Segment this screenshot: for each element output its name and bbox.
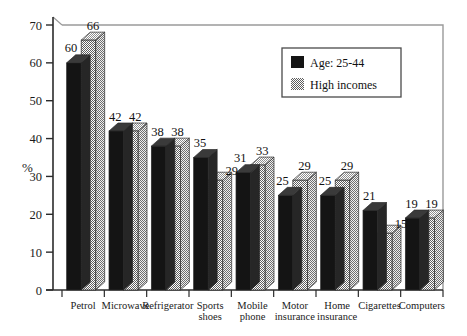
bar-side-face (293, 187, 302, 290)
bar-age-25-44 (236, 173, 251, 290)
solid-black-swatch (291, 56, 304, 68)
bar-value-label: 42 (129, 110, 142, 124)
bar-age-25-44 (321, 195, 336, 290)
x-axis-ticks (62, 290, 443, 297)
x-axis-label: Computers (399, 300, 445, 311)
y-tick-label: 20 (30, 208, 43, 222)
bar-side-face (124, 123, 133, 290)
bar-value-label: 25 (276, 174, 289, 188)
bar-side-face (166, 138, 175, 290)
x-axis-label: insurance (317, 311, 358, 322)
bar-side-face (434, 210, 443, 290)
x-axis-label: insurance (275, 311, 316, 322)
bar-age-25-44 (109, 131, 124, 290)
bar-side-face (138, 123, 147, 290)
y-axis-title: % (22, 160, 33, 175)
x-axis-label: Sports (197, 300, 224, 311)
bar-value-label: 35 (194, 136, 207, 150)
bar-value-label: 19 (425, 197, 438, 211)
bar-side-face (208, 150, 217, 291)
bar-value-label: 15 (395, 217, 408, 231)
bar-age-25-44 (67, 63, 82, 290)
y-tick-label: 50 (30, 94, 43, 108)
legend: Age: 25-44 High incomes (282, 48, 401, 97)
y-tick-label: 60 (30, 56, 43, 70)
bar-side-face (392, 225, 401, 290)
y-tick-label: 40 (30, 132, 43, 146)
bar-age-25-44 (278, 195, 293, 290)
x-axis-label: shoes (198, 311, 221, 322)
bar-value-label: 29 (341, 159, 354, 173)
bar-value-label: 66 (87, 19, 100, 33)
bar-age-25-44 (405, 218, 420, 290)
bar-value-label: 19 (405, 197, 418, 211)
bar-chart: 010203040506070 % 6066424238383529313325… (0, 0, 467, 336)
bar-side-face (335, 187, 344, 290)
x-axis-label: Motor (282, 300, 309, 311)
y-tick-label: 10 (30, 246, 43, 260)
bar-side-face (96, 32, 105, 290)
bar-value-label: 42 (109, 110, 122, 124)
x-axis-label: phone (240, 311, 266, 322)
y-tick-label: 0 (36, 284, 42, 298)
bar-age-25-44 (194, 158, 209, 291)
bar-side-face (378, 203, 387, 291)
bar-side-face (265, 157, 274, 290)
bar-age-25-44 (151, 146, 166, 290)
bar-side-face (420, 210, 429, 290)
x-axis-label: Home (324, 300, 350, 311)
x-axis-label: Refrigerator (142, 300, 194, 311)
bar-value-label: 29 (225, 164, 238, 178)
bar-side-face (307, 172, 316, 290)
x-axis-label: Petrol (71, 300, 96, 311)
x-axis-label: Mobile (237, 300, 268, 311)
bar-side-face (350, 172, 359, 290)
bar-value-label: 25 (319, 174, 332, 188)
bar-value-label: 29 (298, 159, 311, 173)
legend-item-label-0: Age: 25-44 (310, 56, 364, 70)
bar-side-face (223, 172, 232, 290)
legend-item-label-1: High incomes (310, 78, 377, 92)
bar-value-label: 21 (363, 189, 376, 203)
x-axis-label: Cigarettes (358, 300, 401, 311)
y-axis-ticks: 010203040506070 (30, 19, 54, 298)
bar-value-label: 33 (256, 144, 269, 158)
bar-age-25-44 (363, 211, 378, 291)
bar-side-face (251, 165, 260, 290)
chart-canvas: 010203040506070 % 6066424238383529313325… (0, 0, 467, 336)
bar-value-label: 31 (234, 151, 247, 165)
bar-side-face (81, 55, 90, 290)
y-tick-label: 70 (30, 19, 43, 33)
x-axis-labels: PetrolMicrowaveRefrigeratorSportsshoesMo… (71, 300, 445, 322)
bar-side-face (180, 138, 189, 290)
bar-value-label: 60 (65, 41, 78, 55)
checker-gray-swatch (291, 78, 304, 90)
bar-value-label: 38 (171, 125, 184, 139)
bar-value-label: 38 (151, 125, 164, 139)
